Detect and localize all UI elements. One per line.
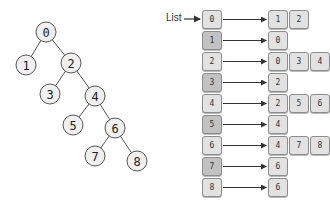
- list-neighbor-4-2: 2: [268, 94, 288, 113]
- list-neighbor-0-2: 2: [289, 10, 309, 29]
- list-index-2: 2: [202, 52, 222, 71]
- tree-node-3: 3: [40, 84, 60, 104]
- list-neighbor-7-6: 6: [268, 157, 288, 176]
- tree-node-8: 8: [127, 151, 147, 171]
- tree-node-1: 1: [16, 55, 36, 75]
- tree-node-5: 5: [63, 115, 83, 135]
- list-neighbor-0-1: 1: [268, 10, 288, 29]
- list-neighbor-8-6: 6: [268, 178, 288, 197]
- list-index-8: 8: [202, 178, 222, 197]
- svg-text:4: 4: [91, 90, 98, 104]
- list-neighbor-2-4: 4: [310, 52, 330, 71]
- list-neighbor-5-4: 4: [268, 115, 288, 134]
- tree-node-7: 7: [85, 146, 105, 166]
- list-neighbor-2-0: 0: [268, 52, 288, 71]
- list-neighbor-6-8: 8: [310, 136, 330, 155]
- list-neighbor-6-4: 4: [268, 136, 288, 155]
- svg-text:3: 3: [46, 88, 53, 102]
- tree-node-2: 2: [61, 53, 81, 73]
- list-index-0: 0: [202, 10, 222, 29]
- list-index-5: 5: [202, 115, 222, 134]
- list-neighbor-2-3: 3: [289, 52, 309, 71]
- tree-node-0: 0: [36, 22, 56, 42]
- list-index-1: 1: [202, 31, 222, 50]
- list-neighbor-6-7: 7: [289, 136, 309, 155]
- svg-text:7: 7: [91, 150, 98, 164]
- list-index-7: 7: [202, 157, 222, 176]
- svg-text:1: 1: [22, 59, 29, 73]
- list-neighbor-4-5: 5: [289, 94, 309, 113]
- list-neighbor-4-6: 6: [310, 94, 330, 113]
- list-neighbor-3-2: 2: [268, 73, 288, 92]
- list-label: List: [166, 12, 182, 23]
- svg-text:0: 0: [42, 26, 49, 40]
- list-index-3: 3: [202, 73, 222, 92]
- tree-node-6: 6: [105, 118, 125, 138]
- list-index-4: 4: [202, 94, 222, 113]
- svg-text:2: 2: [67, 57, 74, 71]
- list-index-6: 6: [202, 136, 222, 155]
- svg-text:5: 5: [69, 119, 76, 133]
- svg-text:8: 8: [133, 155, 140, 169]
- list-neighbor-1-0: 0: [268, 31, 288, 50]
- tree-node-4: 4: [85, 86, 105, 106]
- svg-text:6: 6: [111, 122, 118, 136]
